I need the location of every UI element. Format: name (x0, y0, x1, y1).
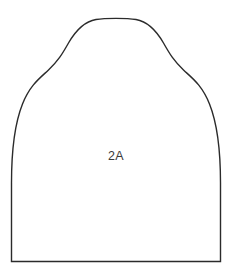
pattern-drawing: 2A (0, 0, 240, 278)
pattern-canvas: 2A (0, 0, 240, 278)
pattern-piece-outline (12, 18, 221, 261)
pattern-piece-label: 2A (108, 149, 124, 163)
